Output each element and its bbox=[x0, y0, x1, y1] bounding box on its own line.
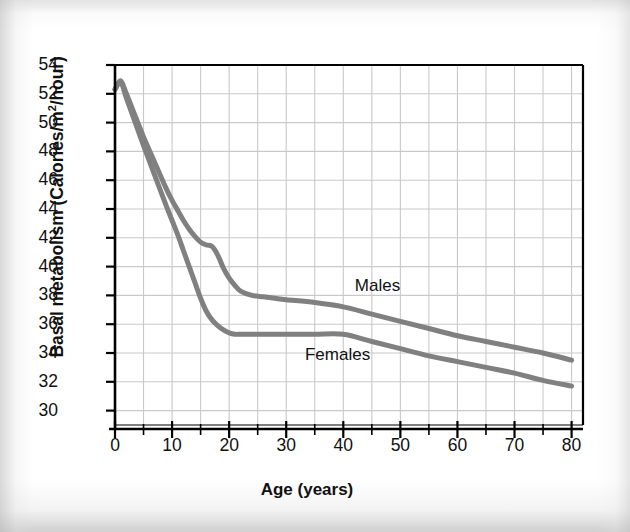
y-tick-label: 42 bbox=[12, 229, 58, 247]
series-label-females: Females bbox=[305, 345, 370, 365]
x-tick-label: 70 bbox=[495, 437, 535, 455]
y-tick-label: 36 bbox=[12, 315, 58, 333]
grid-and-series bbox=[115, 65, 583, 425]
x-tick-label: 60 bbox=[437, 437, 477, 455]
series-label-males: Males bbox=[355, 276, 400, 296]
x-tick-label: 80 bbox=[552, 437, 592, 455]
x-tick-label: 0 bbox=[95, 437, 135, 455]
chart-figure: Basal metabolism (Calories/m2/hour) 3032… bbox=[0, 0, 630, 532]
x-tick-label: 50 bbox=[380, 437, 420, 455]
y-tick-label: 40 bbox=[12, 258, 58, 276]
x-axis-title: Age (years) bbox=[0, 480, 630, 500]
y-tick-label: 34 bbox=[12, 344, 58, 362]
y-tick-label: 44 bbox=[12, 200, 58, 218]
y-tick-label: 30 bbox=[12, 402, 58, 420]
y-tick-label: 50 bbox=[12, 114, 58, 132]
x-axis-title-text: Age (years) bbox=[261, 480, 354, 499]
y-tick-label: 46 bbox=[12, 171, 58, 189]
y-tick-label: 38 bbox=[12, 286, 58, 304]
x-tick-label: 40 bbox=[323, 437, 363, 455]
y-axis-title-superscript: 2 bbox=[46, 105, 58, 111]
y-tick-label: 54 bbox=[12, 56, 58, 74]
y-tick-label: 52 bbox=[12, 85, 58, 103]
y-tick-label: 32 bbox=[12, 373, 58, 391]
y-tick-label: 48 bbox=[12, 142, 58, 160]
x-tick-label: 20 bbox=[209, 437, 249, 455]
x-tick-label: 30 bbox=[266, 437, 306, 455]
x-tick-label: 10 bbox=[152, 437, 192, 455]
plot-area: Males Females bbox=[115, 65, 583, 425]
